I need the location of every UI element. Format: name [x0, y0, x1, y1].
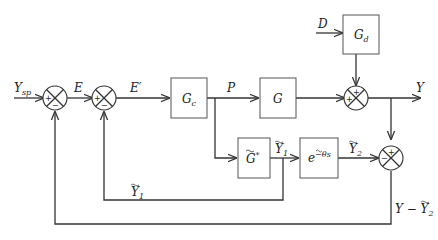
svg-text:−: − — [52, 101, 59, 110]
block-gd: Gd — [343, 15, 379, 54]
svg-text:G: G — [273, 92, 283, 106]
svg-text:Y1: Y1 — [275, 142, 288, 158]
svg-text:+: + — [388, 148, 395, 157]
summing-junction-3: + + — [344, 86, 368, 110]
summing-junction-2: + − — [92, 86, 116, 110]
summing-junction-1: + − — [43, 86, 67, 110]
label-y1-tilde-top: Y1 — [275, 141, 288, 158]
label-eprime: E′ — [129, 81, 142, 95]
svg-text:Y − Y2: Y − Y2 — [395, 202, 434, 218]
block-delay: e−θs — [300, 138, 338, 178]
svg-text:−: − — [381, 154, 388, 163]
signal-lines — [14, 33, 420, 224]
p-tap-line — [215, 98, 236, 158]
svg-text:Y1: Y1 — [131, 185, 144, 201]
block-g: G — [260, 78, 296, 118]
label-y-minus-y2: Y − Y2 — [395, 201, 434, 218]
label-y: Y — [416, 81, 425, 95]
summing-junction-4: + − — [379, 146, 403, 170]
label-y2-tilde: Y2 — [349, 141, 362, 158]
svg-text:−: − — [101, 101, 108, 110]
svg-text:+: + — [94, 94, 101, 103]
label-y1-tilde-feedback: Y1 — [131, 184, 144, 201]
svg-text:+: + — [353, 88, 360, 97]
error-feedback-line — [55, 112, 391, 224]
svg-text:+: + — [346, 95, 353, 104]
svg-text:+: + — [45, 94, 52, 103]
block-g-star: G* — [238, 138, 270, 178]
smith-predictor-diagram: Gc G Gd G* e−θs + − + − + + — [0, 0, 438, 240]
label-ysp: Ysp — [14, 81, 31, 97]
label-p: P — [226, 81, 236, 95]
block-gc: Gc — [171, 78, 207, 118]
label-d: D — [317, 17, 328, 31]
label-e: E — [73, 81, 83, 95]
svg-text:Y2: Y2 — [349, 142, 362, 158]
